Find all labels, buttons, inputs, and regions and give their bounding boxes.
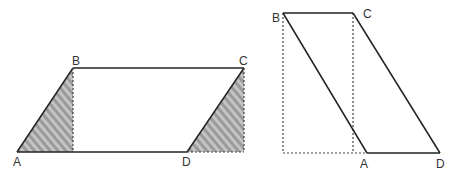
label-b-left: B bbox=[72, 54, 80, 68]
side-cd-right bbox=[353, 13, 440, 153]
label-a-right: A bbox=[360, 157, 368, 171]
label-a-left: A bbox=[13, 155, 21, 169]
label-c-right: C bbox=[363, 7, 372, 21]
label-d-right: D bbox=[436, 157, 445, 171]
right-figure: B C A D bbox=[272, 7, 445, 171]
label-c-left: C bbox=[239, 54, 248, 68]
diagram-canvas: A B C D B C A D bbox=[0, 0, 463, 178]
label-b-right: B bbox=[272, 11, 280, 25]
left-figure: A B C D bbox=[13, 54, 248, 169]
side-ab-right bbox=[283, 13, 367, 153]
label-d-left: D bbox=[182, 155, 191, 169]
